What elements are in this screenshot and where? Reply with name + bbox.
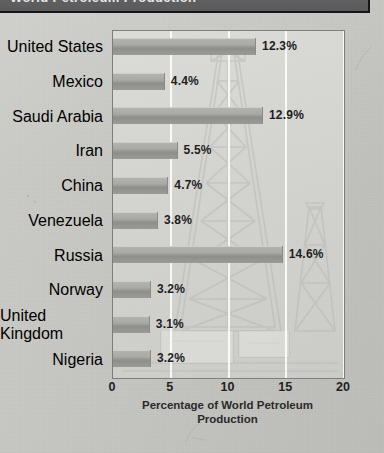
- category-label-text: Venezuela: [28, 212, 108, 230]
- caption-line-1: Percentage of World Petroleum: [112, 398, 343, 412]
- chart-row: 3.2%: [113, 343, 344, 378]
- category-label-norway: Norway: [0, 273, 108, 308]
- category-label-iran: Iran: [0, 134, 108, 169]
- category-label-text: Russia: [54, 247, 108, 265]
- x-tick-label: 10: [221, 380, 235, 394]
- x-tick-label: 5: [166, 380, 173, 394]
- category-label-text: China: [61, 177, 108, 195]
- category-label-text: Iran: [75, 142, 108, 160]
- category-axis-labels: United StatesMexicoSaudi ArabiaIranChina…: [0, 30, 112, 377]
- bar-saudi-arabia[interactable]: [113, 107, 263, 124]
- bar-mexico[interactable]: [113, 73, 165, 90]
- bar-norway[interactable]: [113, 281, 151, 298]
- value-label: 14.6%: [289, 247, 324, 261]
- category-label-mexico: Mexico: [0, 65, 108, 100]
- category-label-united-kingdom: United Kingdom: [0, 308, 108, 343]
- category-label-text: Nigeria: [52, 351, 108, 369]
- bar-iran[interactable]: [113, 142, 178, 159]
- chart-row: 12.3%: [113, 31, 344, 66]
- bar-china[interactable]: [113, 177, 168, 194]
- header-band: World Petroleum Production: [0, 0, 370, 13]
- bar-united-states[interactable]: [113, 38, 256, 55]
- category-label-nigeria: Nigeria: [0, 342, 108, 377]
- category-label-venezuela: Venezuela: [0, 204, 108, 239]
- chart-row: 14.6%: [113, 239, 344, 274]
- axis-caption: Percentage of World Petroleum Production: [112, 398, 343, 426]
- value-label: 12.3%: [262, 39, 297, 53]
- category-label-united-states: United States: [0, 30, 108, 65]
- chart-row: 12.9%: [113, 100, 344, 135]
- chart-figure: United StatesMexicoSaudi ArabiaIranChina…: [0, 12, 384, 453]
- value-label: 3.2%: [157, 351, 185, 365]
- value-label: 3.1%: [156, 317, 184, 331]
- bar-venezuela[interactable]: [113, 212, 158, 229]
- x-tick-label: 0: [109, 380, 116, 394]
- bar-united-kingdom[interactable]: [113, 316, 150, 333]
- chart-row: 5.5%: [113, 135, 344, 170]
- x-tick-label: 20: [336, 380, 350, 394]
- category-label-russia: Russia: [0, 238, 108, 273]
- chart-row: 4.4%: [113, 66, 344, 101]
- value-label: 3.8%: [164, 213, 192, 227]
- plot-area: 12.3%4.4%12.9%5.5%4.7%3.8%14.6%3.2%3.1%3…: [112, 30, 345, 379]
- bar-russia[interactable]: [113, 246, 283, 263]
- value-label: 3.2%: [157, 282, 185, 296]
- chart-row: 3.1%: [113, 309, 344, 344]
- value-label: 4.7%: [174, 178, 202, 192]
- caption-line-2: Production: [112, 412, 343, 426]
- value-label: 5.5%: [184, 143, 212, 157]
- x-tick-label: 15: [278, 380, 292, 394]
- chart-row: 3.2%: [113, 274, 344, 309]
- value-label: 4.4%: [171, 74, 199, 88]
- category-label-text: United States: [7, 38, 108, 56]
- chart-row: 4.7%: [113, 170, 344, 205]
- category-label-text: United Kingdom: [0, 307, 108, 343]
- category-label-china: China: [0, 169, 108, 204]
- value-label: 12.9%: [269, 108, 304, 122]
- category-label-text: Mexico: [52, 73, 108, 91]
- category-label-text: Saudi Arabia: [12, 108, 108, 126]
- category-label-saudi-arabia: Saudi Arabia: [0, 99, 108, 134]
- category-label-text: Norway: [49, 281, 108, 299]
- chart-row: 3.8%: [113, 205, 344, 240]
- header-title: World Petroleum Production: [10, 0, 196, 5]
- x-axis: 05101520: [112, 378, 343, 398]
- bar-nigeria[interactable]: [113, 350, 151, 367]
